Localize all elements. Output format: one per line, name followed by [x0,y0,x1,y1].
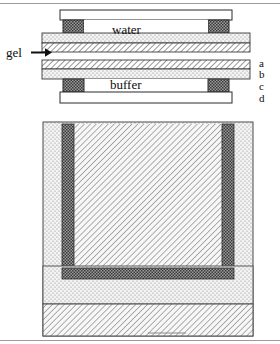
bottom-plate-d [60,92,232,103]
gel-layer-a-lower [42,60,250,69]
spacer-block-c-top-right [208,20,229,33]
spacer-block-c-top-left [63,20,84,33]
plan-view-group [43,122,253,336]
top-plate-d [60,10,232,20]
plan-base-block [43,304,253,336]
layer-key-d: d [259,93,265,104]
apparatus-diagram [0,0,280,344]
backing-layer-b-lower [42,69,250,79]
layer-key-c: c [259,81,264,92]
plan-gel-region [73,124,223,273]
water-label: water [112,22,141,38]
plan-spacer-strip-right [222,124,234,274]
plan-spacer-strip-left [62,124,74,274]
buffer-label: buffer [110,77,142,93]
layer-key-b: b [259,69,265,80]
spacer-block-c-bottom-right [208,79,229,92]
water-chamber [84,20,208,33]
gel-layer-a-upper [42,43,250,52]
buffer-chamber [84,79,208,92]
plan-bottom-bar-overlay [62,268,234,279]
spacer-block-c-bottom-left [63,79,84,92]
backing-layer-b-upper [42,33,250,43]
gel-label: gel [6,45,22,61]
